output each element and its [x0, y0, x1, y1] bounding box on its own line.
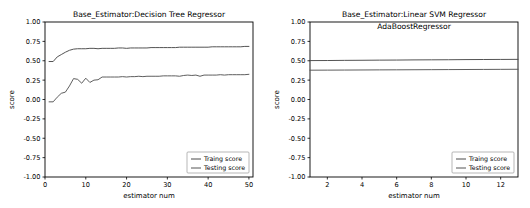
y-tick-label: 0.75: [291, 38, 306, 46]
y-tick-label: 0.50: [26, 57, 41, 65]
series-line-traing-score: [310, 59, 518, 60]
y-tick-label: -0.25: [23, 115, 40, 123]
chart-title: Base_Estimator:Linear SVM Regressor: [342, 10, 487, 19]
series-line-traing-score: [49, 46, 249, 61]
legend-label-2: Testing score: [468, 164, 510, 172]
linear-svm-plot: -1.00-0.75-0.50-0.250.000.250.500.751.00…: [265, 0, 530, 208]
y-tick-label: 0.75: [26, 38, 41, 46]
y-tick-label: -1.00: [288, 173, 305, 181]
decision-tree-plot: -1.00-0.75-0.50-0.250.000.250.500.751.00…: [0, 0, 265, 208]
chart-panel-decision-tree: -1.00-0.75-0.50-0.250.000.250.500.751.00…: [0, 0, 265, 208]
y-tick-label: -0.50: [288, 135, 305, 143]
x-axis-title: estimator num: [388, 192, 440, 200]
legend-label-2: Testing score: [203, 164, 245, 172]
y-tick-label: -0.75: [288, 154, 305, 162]
y-tick-label: -0.25: [288, 115, 305, 123]
x-tick-label: 30: [163, 181, 171, 189]
chart-panel-linear-svm: -1.00-0.75-0.50-0.250.000.250.500.751.00…: [265, 0, 530, 208]
y-axis-title: score: [8, 90, 16, 109]
x-tick-label: 12: [496, 181, 504, 189]
y-tick-label: 1.00: [26, 18, 41, 26]
y-tick-label: 0.00: [291, 96, 306, 104]
x-tick-label: 0: [43, 181, 47, 189]
x-tick-label: 4: [360, 181, 364, 189]
y-tick-label: 1.00: [291, 18, 306, 26]
x-tick-label: 6: [395, 181, 399, 189]
series-line-testing-score: [49, 74, 249, 102]
y-tick-label: -0.50: [23, 135, 40, 143]
x-axis-title: estimator num: [123, 192, 175, 200]
y-tick-label: 0.25: [291, 77, 306, 85]
y-tick-label: 0.25: [26, 77, 41, 85]
x-tick-label: 10: [82, 181, 90, 189]
x-tick-label: 10: [462, 181, 470, 189]
legend-label-1: Traing score: [468, 155, 507, 163]
series-line-testing-score: [310, 69, 518, 70]
x-tick-label: 50: [245, 181, 253, 189]
chart-title: Base_Estimator:Decision Tree Regressor: [73, 10, 226, 19]
legend-label-1: Traing score: [203, 155, 242, 163]
y-tick-label: -1.00: [23, 173, 40, 181]
y-tick-label: 0.00: [26, 96, 41, 104]
x-tick-label: 8: [429, 181, 433, 189]
x-tick-label: 40: [204, 181, 212, 189]
x-tick-label: 20: [122, 181, 130, 189]
chart-subtitle: AdaBoostRegressor: [377, 22, 452, 31]
x-tick-label: 2: [325, 181, 329, 189]
y-axis-title: score: [273, 90, 281, 109]
y-tick-label: 0.50: [291, 57, 306, 65]
y-tick-label: -0.75: [23, 154, 40, 162]
figure-canvas: -1.00-0.75-0.50-0.250.000.250.500.751.00…: [0, 0, 530, 208]
